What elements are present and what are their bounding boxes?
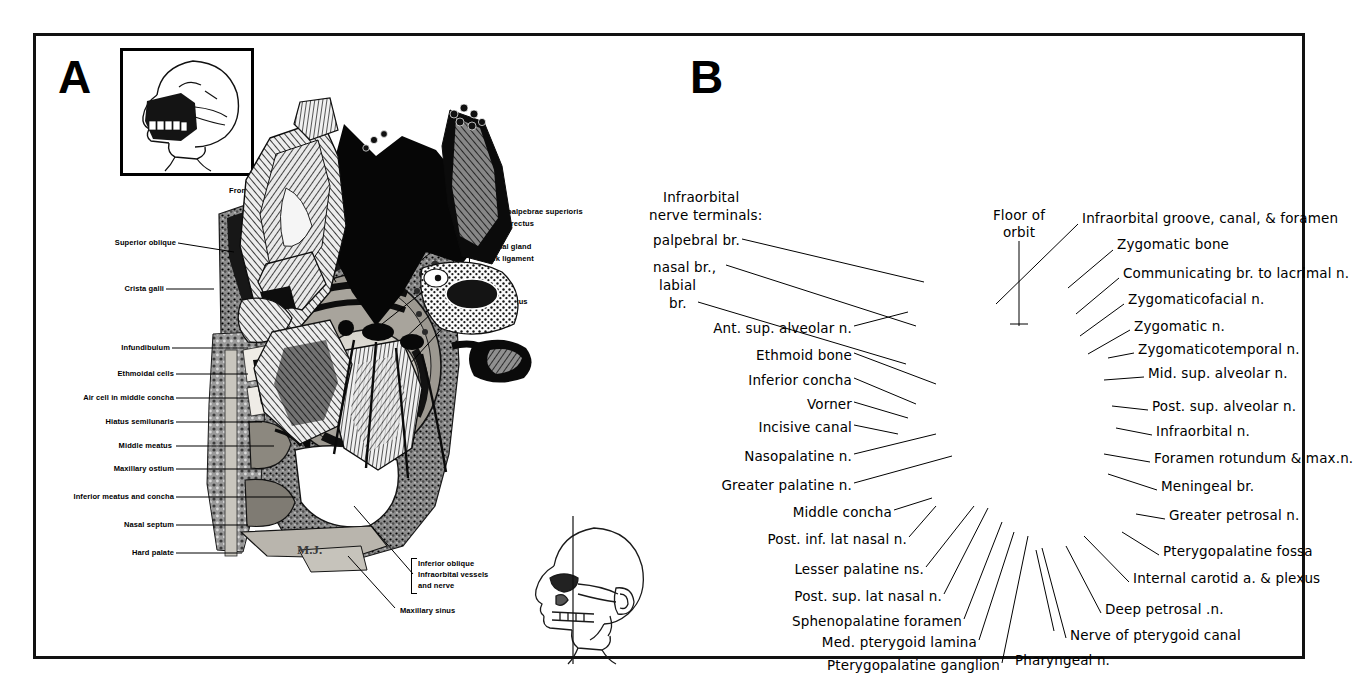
label-deep-petrosal-n: Deep petrosal .n. [1105, 601, 1224, 617]
label-meningeal-br: Meningeal br. [1161, 478, 1254, 494]
label-infraorbital-vessels: Infraorbital vessels [418, 570, 488, 579]
label-zygomaticotemporal-n: Zygomaticotemporal n. [1138, 341, 1300, 357]
orientation-skull-diagram [498, 508, 658, 668]
label-ethmoidal-cells: Ethmoidal cells [36, 369, 174, 378]
label-inferior-oblique: Inferior oblique [418, 559, 474, 568]
label-pharyngeal-n: Pharyngeal n. [1015, 652, 1110, 668]
label-nerve-terminals: nerve terminals: [649, 207, 762, 223]
label-lesser-palatine-ns: Lesser palatine ns. [708, 561, 924, 577]
label-orbit: orbit [979, 224, 1059, 240]
label-pterygopalatine-fossa: Pterygopalatine fossa [1163, 543, 1313, 559]
label-maxillary-ostium: Maxillary ostium [36, 464, 174, 473]
label-zygomatic-n: Zygomatic n. [1134, 318, 1225, 334]
label-inferior-concha: Inferior concha [636, 372, 852, 388]
label-palpebral-br: palpebral br. [653, 232, 740, 248]
label-post-sup-lat-nasal-n: Post. sup. lat nasal n. [726, 588, 942, 604]
label-zygomatic-bone: Zygomatic bone [1117, 236, 1229, 252]
label-foramen-rotundum-max-n: Foramen rotundum & max.n. [1154, 450, 1353, 466]
label-air-cell-in-middle-concha: Air cell in middle concha [36, 393, 174, 402]
label-hard-palate: Hard palate [36, 548, 174, 557]
label-infraorbital-n: Infraorbital n. [1156, 423, 1250, 439]
label-vorner: Vorner [636, 396, 852, 412]
label-post-inf-lat-nasal-n: Post. inf. lat nasal n. [691, 531, 907, 547]
label-infraorbital: Infraorbital [663, 189, 739, 205]
label-middle-concha: Middle concha [676, 504, 892, 520]
label-nerve-of-pterygoid-canal: Nerve of pterygoid canal [1070, 627, 1241, 643]
label-incisive-canal: Incisive canal [636, 419, 852, 435]
label-crista-galli: Crista galli [36, 284, 164, 293]
label-post-sup-alveolar-n: Post. sup. alveolar n. [1152, 398, 1296, 414]
label-maxillary-sinus: Maxillary sinus [400, 606, 455, 615]
bracket-inferior-oblique-group [411, 558, 417, 594]
label-nasal-septum: Nasal septum [36, 520, 174, 529]
label-ethmoid-bone: Ethmoid bone [636, 347, 852, 363]
label-ant-sup-alveolar-n: Ant. sup. alveolar n. [636, 320, 852, 336]
label-pterygopalatine-ganglion: Pterygopalatine ganglion [784, 657, 1000, 673]
panel-b-dissection-image [226, 96, 556, 526]
label-internal-carotid-a-plexus: Internal carotid a. & plexus [1133, 570, 1320, 586]
label-greater-petrosal-n: Greater petrosal n. [1169, 507, 1299, 523]
label-sphenopalatine-foramen: Sphenopalatine foramen [746, 613, 962, 629]
label-middle-meatus: Middle meatus [36, 441, 172, 450]
label-floor-of: Floor of [979, 207, 1059, 223]
label-zygomaticofacial-n: Zygomaticofacial n. [1128, 291, 1264, 307]
panel-a-letter: A [58, 54, 90, 100]
label-greater-palatine-n: Greater palatine n. [636, 477, 852, 493]
label-infundibulum: Infundibulum [36, 343, 170, 352]
figure-border: A B [33, 33, 1305, 659]
artist-signature-text: M.J. [297, 542, 322, 558]
label-nasal-br: nasal br., [653, 259, 716, 275]
label-communicating-br-to-lacrimal-n: Communicating br. to lacrimal n. [1123, 265, 1349, 281]
label-br: br. [669, 295, 687, 311]
panel-b-letter: B [690, 54, 722, 100]
label-nasopalatine-n: Nasopalatine n. [636, 448, 852, 464]
label-inferior-meatus-and-concha: Inferior meatus and concha [36, 492, 174, 501]
label-hiatus-semilunaris: Hiatus semilunaris [36, 417, 174, 426]
label-and-nerve: and nerve [418, 581, 454, 590]
label-labial: labial [659, 277, 696, 293]
label-mid-sup-alveolar-n: Mid. sup. alveolar n. [1148, 365, 1288, 381]
label-med-pterygoid-lamina: Med. pterygoid lamina [761, 634, 977, 650]
label-superior-oblique: Superior oblique [36, 238, 176, 247]
label-infraorbital-groove-canal-foramen: Infraorbital groove, canal, & foramen [1082, 210, 1338, 226]
